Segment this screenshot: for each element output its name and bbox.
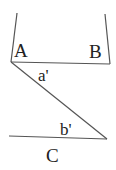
bottom-line	[9, 136, 107, 139]
geometry-diagram: A B a' b' C	[0, 0, 116, 170]
label-b: B	[89, 41, 102, 62]
right-line	[105, 14, 110, 64]
label-a-prime: a'	[38, 66, 49, 85]
segment-ab	[11, 62, 110, 64]
label-b-prime: b'	[60, 120, 72, 139]
transversal-line	[11, 62, 107, 139]
label-a: A	[14, 40, 28, 61]
label-c: C	[46, 145, 59, 166]
